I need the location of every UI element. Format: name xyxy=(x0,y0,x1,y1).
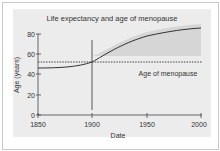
x-axis-label: Date xyxy=(111,132,126,139)
shaded-area xyxy=(92,24,201,56)
svg-text:2000: 2000 xyxy=(191,121,207,128)
svg-text:60: 60 xyxy=(27,51,35,58)
x-ticks xyxy=(38,113,201,118)
svg-text:1900: 1900 xyxy=(84,121,100,128)
svg-text:0: 0 xyxy=(31,112,35,119)
y-ticks xyxy=(36,34,41,115)
svg-text:20: 20 xyxy=(27,92,35,99)
svg-text:1850: 1850 xyxy=(30,121,46,128)
menopause-annotation: Age of menopause xyxy=(139,70,198,78)
svg-text:40: 40 xyxy=(27,71,35,78)
chart-svg: Life expectancy and age of menopause 80 … xyxy=(0,0,220,151)
svg-text:1950: 1950 xyxy=(139,121,155,128)
svg-text:80: 80 xyxy=(27,31,35,38)
chart-title: Life expectancy and age of menopause xyxy=(47,14,178,23)
x-tick-labels: 1850 1900 1950 2000 xyxy=(30,121,207,128)
y-tick-labels: 80 60 40 20 0 xyxy=(27,31,35,119)
y-axis-label: Age (years) xyxy=(13,57,21,93)
